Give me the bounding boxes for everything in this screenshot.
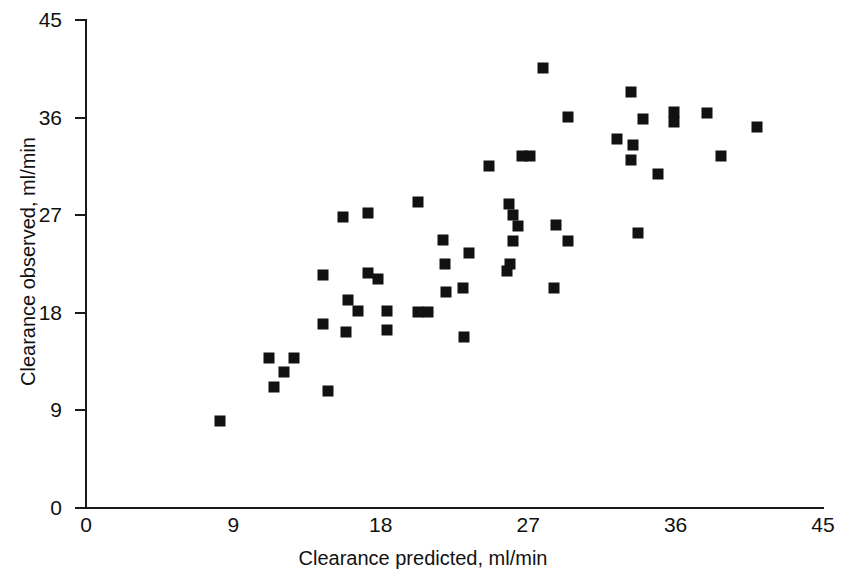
data-point	[352, 305, 363, 316]
data-point	[524, 150, 535, 161]
data-point	[701, 108, 712, 119]
data-point	[438, 235, 449, 246]
data-point	[341, 327, 352, 338]
data-point	[483, 161, 494, 172]
data-point	[382, 305, 393, 316]
data-point	[513, 221, 524, 232]
x-axis-tick-label: 27	[498, 514, 558, 535]
data-point	[716, 150, 727, 161]
y-axis-tick	[75, 117, 85, 119]
data-point	[652, 168, 663, 179]
data-point	[503, 199, 514, 210]
data-point	[457, 282, 468, 293]
scatter-plot-figure: 0918273645 0918273645 Clearance predicte…	[0, 0, 846, 581]
x-axis-tick-label: 0	[56, 514, 116, 535]
y-axis-title: Clearance observed, ml/min	[17, 2, 40, 522]
data-point	[382, 325, 393, 336]
data-point	[505, 259, 516, 270]
data-point	[362, 208, 373, 219]
data-point	[269, 381, 280, 392]
y-axis-tick	[75, 312, 85, 314]
data-point	[611, 134, 622, 145]
data-point	[637, 113, 648, 124]
data-point	[626, 154, 637, 165]
x-axis-tick-label: 9	[203, 514, 263, 535]
data-point	[413, 197, 424, 208]
x-axis-tick-label: 18	[351, 514, 411, 535]
data-point	[441, 287, 452, 298]
data-point	[343, 294, 354, 305]
data-point	[318, 318, 329, 329]
data-point	[264, 353, 275, 364]
data-point	[338, 212, 349, 223]
data-point	[323, 385, 334, 396]
data-point	[372, 274, 383, 285]
data-point	[439, 259, 450, 270]
data-point	[632, 227, 643, 238]
data-point	[215, 416, 226, 427]
data-point	[562, 111, 573, 122]
data-point	[423, 306, 434, 317]
data-point	[626, 86, 637, 97]
y-axis-tick	[75, 214, 85, 216]
data-point	[279, 367, 290, 378]
plot-area	[86, 20, 823, 508]
x-axis-tick-label: 45	[793, 514, 846, 535]
data-point	[464, 248, 475, 259]
data-point	[508, 210, 519, 221]
data-point	[752, 122, 763, 133]
data-point	[668, 116, 679, 127]
data-point	[459, 331, 470, 342]
y-axis-tick	[75, 19, 85, 21]
y-axis-tick	[75, 507, 85, 509]
y-axis-tick	[75, 409, 85, 411]
data-point	[318, 269, 329, 280]
data-point	[288, 353, 299, 364]
x-axis-title: Clearance predicted, ml/min	[0, 547, 846, 570]
data-point	[549, 282, 560, 293]
data-point	[628, 139, 639, 150]
data-point	[508, 236, 519, 247]
x-axis-tick-label: 36	[646, 514, 706, 535]
data-point	[551, 219, 562, 230]
data-point	[562, 236, 573, 247]
data-point	[537, 62, 548, 73]
